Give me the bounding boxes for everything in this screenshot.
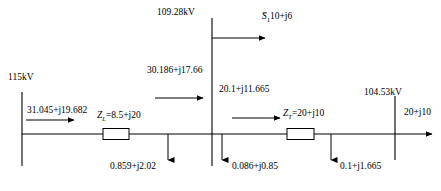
- flow-sending-end-label: 31.045+j19.682: [27, 106, 87, 116]
- loss-middle-bus-label: 0.086+j0.85: [232, 162, 278, 172]
- line-impedance-box: [103, 129, 129, 140]
- line-impedance-subscript: L: [102, 115, 106, 122]
- flow-transformer-sending-label: 20.1+j11.665: [219, 85, 269, 95]
- transformer-impedance-value: 20+j10: [297, 108, 324, 118]
- transformer-impedance-box: [287, 129, 314, 140]
- bus-voltage-middle-label: 109.28kV: [157, 8, 195, 18]
- loss-transformer-label: 0.1+j1.665: [340, 162, 381, 172]
- transformer-impedance-subscript: T: [288, 113, 292, 120]
- flow-tap-load-label: ~S110+j6: [262, 11, 292, 23]
- flow-line-receiving-label: 30.186+j17.66: [147, 66, 203, 76]
- vector-accent-icon: ~: [262, 10, 267, 18]
- bus-voltage-sending-label: 115kV: [8, 73, 34, 83]
- bus-voltage-receiving-label: 104.53kV: [364, 88, 402, 98]
- line-impedance-value: 8.5+j20: [111, 110, 140, 120]
- power-system-single-line-diagram: 115kV 109.28kV 104.53kV 31.045+j19.682 3…: [0, 0, 441, 191]
- flow-output-load-label: 20+j10: [404, 108, 431, 118]
- loss-line-label: 0.859+j2.02: [110, 162, 156, 172]
- flow-tap-load-value: 10+j6: [270, 11, 292, 21]
- s-vector-symbol: ~S: [262, 11, 267, 21]
- transformer-impedance-label: ZT=20+j10: [283, 108, 324, 120]
- line-impedance-label: ZL=8.5+j20: [97, 110, 141, 122]
